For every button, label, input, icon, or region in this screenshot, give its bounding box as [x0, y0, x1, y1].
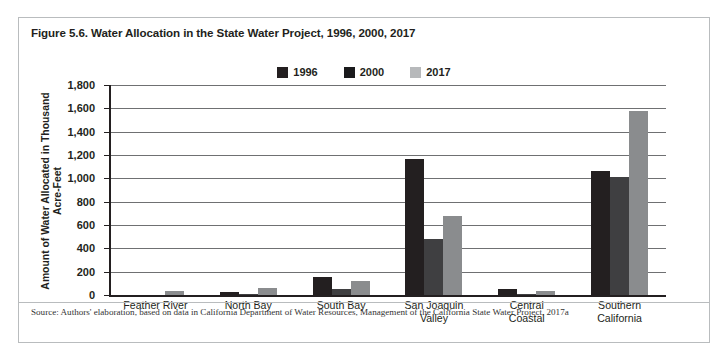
legend-label-2000: 2000	[360, 66, 384, 78]
y-tick-label-600: 600	[77, 219, 95, 231]
figure-container: Figure 5.6. Water Allocation in the Stat…	[18, 17, 710, 343]
bar	[498, 289, 517, 295]
y-tick-label-1000: 1,000	[67, 172, 95, 184]
chart-legend: 1996 2000 2017	[19, 65, 709, 79]
y-tick-label-400: 400	[77, 242, 95, 254]
bar	[313, 277, 332, 295]
bar	[610, 177, 629, 295]
source-note: Source: Authors' elaboration, based on d…	[31, 307, 701, 317]
bar-group	[480, 85, 573, 295]
chart-plot-area: 02004006008001,0001,2001,4001,6001,800 F…	[109, 85, 666, 297]
figure-title: Figure 5.6. Water Allocation in the Stat…	[31, 26, 691, 39]
legend-swatch-2017-icon	[410, 67, 421, 78]
y-tick-label-200: 200	[77, 266, 95, 278]
bar	[220, 292, 239, 296]
bar	[591, 171, 610, 295]
bar	[332, 289, 351, 295]
bar	[165, 291, 184, 295]
bar	[629, 111, 648, 295]
legend-swatch-2000-icon	[344, 67, 355, 78]
bar	[351, 281, 370, 295]
legend-label-1996: 1996	[293, 66, 317, 78]
x-axis-line	[109, 295, 666, 297]
bar	[258, 288, 277, 295]
legend-item-1996: 1996	[277, 66, 317, 78]
bar-group	[388, 85, 481, 295]
bar	[405, 159, 424, 296]
bar-group	[573, 85, 666, 295]
y-axis-title: Amount of Water Allocated in Thousand Ac…	[41, 85, 63, 297]
bar	[239, 294, 258, 295]
legend-swatch-1996-icon	[277, 67, 288, 78]
legend-item-2017: 2017	[410, 66, 450, 78]
y-tick-label-800: 800	[77, 196, 95, 208]
bar	[517, 294, 536, 295]
legend-label-2017: 2017	[426, 66, 450, 78]
y-tick-label-1600: 1,600	[67, 102, 95, 114]
y-tick-label-0: 0	[89, 289, 95, 301]
y-tick-label-1400: 1,400	[67, 126, 95, 138]
y-tick-label-1800: 1,800	[67, 79, 95, 91]
bar	[443, 216, 462, 295]
bar	[424, 239, 443, 295]
bar	[536, 291, 555, 295]
source-divider	[19, 302, 709, 303]
legend-item-2000: 2000	[344, 66, 384, 78]
y-tick-label-1200: 1,200	[67, 149, 95, 161]
bar-group	[295, 85, 388, 295]
bar-group	[109, 85, 202, 295]
bar-group	[202, 85, 295, 295]
